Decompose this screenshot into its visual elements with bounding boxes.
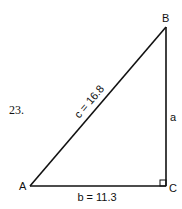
vertex-label-c: C: [169, 182, 177, 194]
right-angle-marker-icon: [160, 180, 166, 186]
side-c-hypotenuse: [30, 27, 166, 186]
side-label-a: a: [170, 111, 177, 123]
vertex-label-b: B: [162, 12, 169, 24]
side-label-b: b = 11.3: [77, 191, 116, 203]
triangle-diagram: 23. A B C a b = 11.3 c = 16.8: [0, 0, 182, 209]
problem-number: 23.: [9, 103, 24, 117]
vertex-label-a: A: [19, 180, 27, 192]
side-label-c: c = 16.8: [72, 83, 107, 121]
triangle: [30, 27, 166, 186]
